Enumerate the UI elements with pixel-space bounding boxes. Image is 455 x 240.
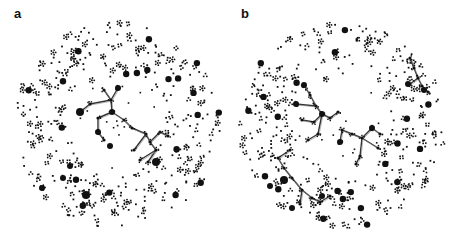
node xyxy=(105,199,107,201)
node xyxy=(166,100,168,102)
node xyxy=(68,89,70,91)
node xyxy=(347,197,349,199)
node xyxy=(137,216,139,218)
node xyxy=(443,141,445,143)
hub-node xyxy=(348,189,354,195)
node xyxy=(197,165,199,167)
hub-node xyxy=(165,76,171,82)
node xyxy=(142,207,144,209)
node xyxy=(244,140,246,142)
hub-node xyxy=(425,101,431,107)
node xyxy=(419,142,421,144)
node xyxy=(264,106,266,108)
node xyxy=(20,83,22,85)
node xyxy=(121,121,122,122)
node xyxy=(397,192,399,194)
node xyxy=(73,54,75,56)
node xyxy=(83,190,85,192)
node xyxy=(55,77,57,79)
node xyxy=(188,168,190,170)
node xyxy=(188,97,190,99)
node xyxy=(44,79,46,81)
edge xyxy=(310,95,316,106)
node xyxy=(65,187,67,189)
node xyxy=(39,142,41,144)
node xyxy=(420,163,422,165)
node xyxy=(344,225,346,227)
node xyxy=(53,49,55,51)
node xyxy=(323,178,325,180)
node xyxy=(85,179,87,181)
node xyxy=(67,160,69,162)
node xyxy=(298,195,300,197)
node xyxy=(23,115,25,117)
node xyxy=(23,85,25,87)
node xyxy=(390,110,392,112)
node xyxy=(284,163,286,165)
node xyxy=(415,61,417,63)
node xyxy=(115,198,117,200)
node xyxy=(379,41,381,43)
node xyxy=(334,198,336,200)
node xyxy=(109,76,111,78)
node xyxy=(285,142,287,144)
node xyxy=(186,62,188,64)
hub-node xyxy=(364,221,370,227)
node xyxy=(67,180,69,182)
node xyxy=(135,67,137,69)
node xyxy=(243,152,245,154)
node xyxy=(408,67,410,69)
node xyxy=(193,68,195,70)
node xyxy=(41,141,43,143)
node xyxy=(285,205,287,207)
node xyxy=(412,128,414,130)
node xyxy=(89,78,91,80)
node xyxy=(46,199,48,201)
node xyxy=(260,116,262,118)
node xyxy=(81,162,83,164)
node xyxy=(39,79,41,81)
node xyxy=(294,77,296,79)
node xyxy=(379,77,381,79)
node xyxy=(185,144,187,146)
panel-b-graph xyxy=(238,22,445,229)
hub-node xyxy=(267,183,273,189)
node xyxy=(38,174,40,176)
node xyxy=(185,59,187,61)
node xyxy=(197,104,199,106)
node xyxy=(390,86,392,88)
node xyxy=(413,97,415,99)
node xyxy=(399,172,401,174)
node xyxy=(365,51,367,53)
node xyxy=(424,179,426,181)
node xyxy=(298,64,300,66)
node xyxy=(251,112,253,114)
node xyxy=(411,68,412,69)
node xyxy=(285,97,287,99)
node xyxy=(404,98,406,100)
node xyxy=(401,207,403,209)
node xyxy=(62,159,64,161)
node xyxy=(259,128,261,130)
node xyxy=(130,200,132,202)
node xyxy=(135,175,137,177)
node xyxy=(342,208,344,210)
node xyxy=(101,183,103,185)
node xyxy=(146,136,147,137)
node xyxy=(295,92,297,94)
node xyxy=(30,125,32,127)
node xyxy=(54,180,56,182)
node xyxy=(99,116,100,117)
node xyxy=(412,162,414,164)
node xyxy=(258,158,260,160)
node xyxy=(116,65,118,67)
node xyxy=(316,34,318,36)
node xyxy=(183,163,185,165)
node xyxy=(159,156,161,158)
node xyxy=(381,152,383,154)
node xyxy=(251,137,253,139)
node xyxy=(358,223,360,225)
node xyxy=(263,73,265,75)
hub-node xyxy=(59,124,65,130)
node xyxy=(346,227,348,229)
